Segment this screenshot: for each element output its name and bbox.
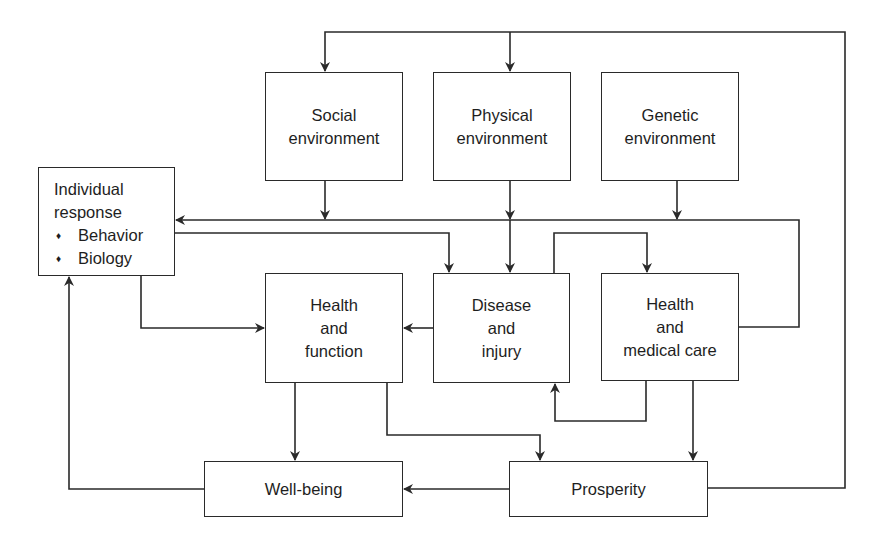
bullet-label: Behavior xyxy=(78,224,143,247)
node-label-line: environment xyxy=(625,127,716,150)
node-label-line: Health xyxy=(646,293,694,316)
node-label-line: response xyxy=(54,201,122,224)
edge-prosperity-to-top-loop xyxy=(325,32,845,488)
bullet-label: Biology xyxy=(78,247,132,270)
edge-hmc-to-disease xyxy=(555,380,646,421)
node-label-line: Disease xyxy=(472,294,532,317)
node-disease-and-injury: Disease and injury xyxy=(433,273,570,383)
node-label-line: and xyxy=(320,317,348,340)
edge-wellbeing-to-individual xyxy=(69,277,204,489)
node-label-line: environment xyxy=(289,127,380,150)
node-label-line: Physical xyxy=(471,104,532,127)
node-label-line: Individual xyxy=(54,178,124,201)
node-label-line: environment xyxy=(457,127,548,150)
node-label-line: Social xyxy=(312,104,357,127)
edge-individual-to-health-function xyxy=(141,275,264,328)
node-label: Prosperity xyxy=(571,478,645,501)
node-label: Well-being xyxy=(265,478,343,501)
bullet-item-biology: ♦ Biology xyxy=(54,247,132,270)
edge-disease-to-hmc xyxy=(554,233,647,273)
node-label-line: medical care xyxy=(623,339,717,362)
edge-individual-to-disease xyxy=(174,233,449,272)
node-social-environment: Social environment xyxy=(265,72,403,181)
node-health-and-function: Health and function xyxy=(265,273,403,383)
node-physical-environment: Physical environment xyxy=(433,72,571,181)
node-label-line: Genetic xyxy=(642,104,699,127)
node-health-and-medical-care: Health and medical care xyxy=(601,273,739,381)
bullet-item-behavior: ♦ Behavior xyxy=(54,224,143,247)
diamond-bullet-icon: ♦ xyxy=(54,247,78,270)
edge-health-function-to-prosperity xyxy=(387,382,540,460)
diamond-bullet-icon: ♦ xyxy=(54,224,78,247)
node-label-line: and xyxy=(656,316,684,339)
node-prosperity: Prosperity xyxy=(509,461,708,517)
node-label-line: function xyxy=(305,340,363,363)
node-label-line: injury xyxy=(482,340,521,363)
node-individual-response: Individual response ♦ Behavior ♦ Biology xyxy=(38,167,175,276)
node-genetic-environment: Genetic environment xyxy=(601,72,739,181)
node-label-line: Health xyxy=(310,294,358,317)
node-well-being: Well-being xyxy=(204,461,403,517)
node-label-line: and xyxy=(488,317,516,340)
